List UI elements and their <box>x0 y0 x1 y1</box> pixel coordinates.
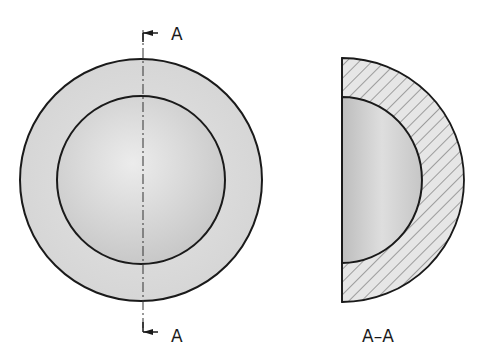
front-view: A A <box>20 24 262 346</box>
section-drawing: A A A–A <box>0 0 485 359</box>
section-view-label: A–A <box>362 326 394 346</box>
section-view: A–A <box>342 58 464 346</box>
section-marker-top: A <box>171 24 183 44</box>
section-marker-bottom: A <box>171 326 183 346</box>
section-arrow-bottom <box>143 322 158 335</box>
section-arrow-top <box>143 30 158 42</box>
inner-sphere <box>57 96 225 264</box>
